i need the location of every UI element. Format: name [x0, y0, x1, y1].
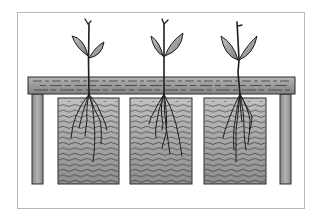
table-leg-left [32, 94, 43, 184]
table-top [28, 77, 295, 94]
water-container-3 [204, 98, 266, 184]
table-leg-right [280, 94, 291, 184]
hydroponic-diagram: Three plant seedlings supported on a tab… [0, 0, 317, 217]
water-container-1 [58, 98, 119, 184]
